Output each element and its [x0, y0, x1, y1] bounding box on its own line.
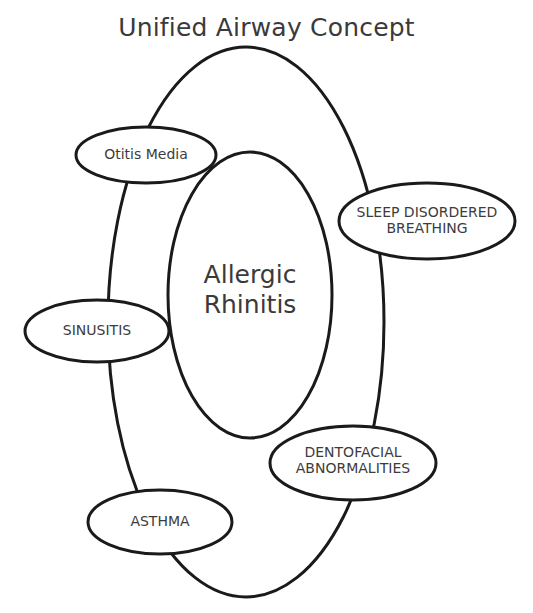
asthma-text: ASTHMA — [88, 513, 232, 529]
sinusitis-text: SINUSITIS — [25, 322, 169, 338]
dentofacial-abnormalities-line2: ABNORMALITIES — [270, 460, 436, 476]
unified-airway-diagram: Unified Airway Concept Allergic Rhinitis… — [0, 0, 533, 613]
allergic-rhinitis-line1: Allergic — [170, 260, 330, 290]
dentofacial-abnormalities-line1: DENTOFACIAL — [270, 444, 436, 460]
dentofacial-abnormalities-label: DENTOFACIAL ABNORMALITIES — [270, 444, 436, 476]
otitis-media-label: Otitis Media — [76, 146, 216, 162]
sinusitis-label: SINUSITIS — [25, 322, 169, 338]
otitis-media-text: Otitis Media — [76, 146, 216, 162]
sleep-disordered-breathing-line2: BREATHING — [339, 220, 515, 236]
diagram-title: Unified Airway Concept — [0, 13, 533, 42]
sleep-disordered-breathing-label: SLEEP DISORDERED BREATHING — [339, 204, 515, 236]
allergic-rhinitis-label: Allergic Rhinitis — [170, 260, 330, 320]
allergic-rhinitis-line2: Rhinitis — [170, 290, 330, 320]
sleep-disordered-breathing-line1: SLEEP DISORDERED — [339, 204, 515, 220]
asthma-label: ASTHMA — [88, 513, 232, 529]
